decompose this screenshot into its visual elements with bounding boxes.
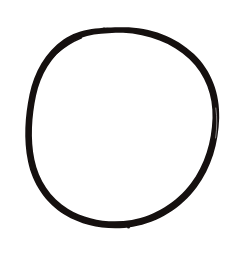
ink-nib-top <box>103 28 105 30</box>
ink-nib-bottom <box>127 226 130 229</box>
drawing-canvas: A single large hand-drawn circle outline… <box>0 0 240 266</box>
hand-drawn-circle-figure <box>0 0 240 266</box>
ink-nib-bottom-left <box>95 223 97 225</box>
